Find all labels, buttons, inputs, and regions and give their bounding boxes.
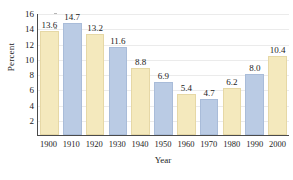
bar-slot: 13.2 — [84, 14, 107, 135]
bar[interactable] — [63, 23, 82, 135]
bar[interactable] — [40, 31, 59, 135]
x-tick-label: 1940 — [132, 139, 149, 149]
bar[interactable] — [177, 94, 196, 135]
bar-value-label: 4.7 — [204, 88, 215, 98]
bar[interactable] — [200, 99, 219, 135]
y-tick-label: 8 — [30, 70, 35, 80]
x-tick-label: 1920 — [86, 139, 103, 149]
bar[interactable] — [245, 74, 264, 135]
bar-value-label: 6.2 — [226, 77, 237, 87]
x-axis-ticks: 1900191019201930194019501960197019801990… — [37, 139, 289, 153]
y-tick-label: 4 — [30, 101, 35, 111]
bar-slot: 5.4 — [175, 14, 198, 135]
x-tick-label: 1970 — [200, 139, 217, 149]
bar-slot: 11.6 — [106, 14, 129, 135]
bar-value-label: 10.4 — [270, 45, 286, 55]
x-tick-label: 2000 — [269, 139, 286, 149]
x-tick-label: 1900 — [40, 139, 57, 149]
y-tick-label: 2 — [30, 116, 35, 126]
y-axis-title: Percent — [6, 27, 16, 87]
bar-slot: 8.0 — [243, 14, 266, 135]
x-tick-label: 1980 — [223, 139, 240, 149]
bar-chart: Percent 246810121416 13.614.713.211.68.8… — [0, 0, 293, 180]
bar-slot: 14.7 — [61, 14, 84, 135]
bar[interactable] — [154, 82, 173, 135]
y-tick-label: 6 — [30, 85, 35, 95]
bar-slot: 8.8 — [129, 14, 152, 135]
bar-value-label: 5.4 — [181, 83, 192, 93]
x-axis-title: Year — [37, 155, 289, 165]
bar[interactable] — [86, 34, 105, 135]
bars-group: 13.614.713.211.68.86.95.44.76.28.010.4 — [38, 14, 289, 135]
bar-slot: 6.2 — [221, 14, 244, 135]
x-tick-label: 1990 — [246, 139, 263, 149]
x-tick-label: 1950 — [155, 139, 172, 149]
y-tick-label: 16 — [25, 9, 34, 19]
x-tick-label: 1910 — [63, 139, 80, 149]
bar[interactable] — [223, 88, 242, 135]
bar-slot: 13.6 — [38, 14, 61, 135]
bar-slot: 6.9 — [152, 14, 175, 135]
bar[interactable] — [131, 68, 150, 135]
bar-value-label: 11.6 — [110, 36, 125, 46]
x-tick-label: 1930 — [109, 139, 126, 149]
bar-slot: 4.7 — [198, 14, 221, 135]
plot-area: 13.614.713.211.68.86.95.44.76.28.010.4 — [37, 14, 289, 136]
x-tick-label: 1960 — [177, 139, 194, 149]
bar[interactable] — [268, 56, 287, 135]
bar-value-label: 6.9 — [158, 71, 169, 81]
bar-value-label: 13.2 — [87, 23, 103, 33]
bar[interactable] — [109, 47, 128, 135]
y-axis-ticks: 246810121416 — [18, 14, 34, 136]
bar-value-label: 8.0 — [249, 63, 260, 73]
y-tick-label: 14 — [25, 24, 34, 34]
bar-value-label: 8.8 — [135, 57, 146, 67]
bar-slot: 10.4 — [266, 14, 289, 135]
bar-value-label: 14.7 — [64, 12, 80, 22]
bar-value-label: 13.6 — [42, 20, 58, 30]
y-tick-label: 10 — [25, 55, 34, 65]
y-tick-label: 12 — [25, 40, 34, 50]
